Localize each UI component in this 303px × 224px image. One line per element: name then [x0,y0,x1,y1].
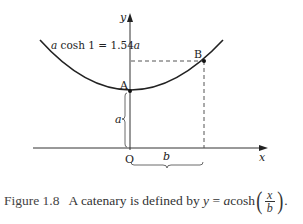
caption-text: A catenary is defined by [69,193,200,209]
point-b-marker [202,59,206,63]
caption-period: . [284,193,287,209]
equation-function: cosh [230,193,255,209]
fraction-denominator: b [267,202,273,214]
height-annotation: a cosh 1 = 1.54a [51,39,140,51]
figure-number: Figure 1.8 [4,193,60,209]
y-axis-arrow-icon [127,13,133,22]
point-a-label: A [119,79,129,92]
point-a-marker [128,89,132,93]
vertical-brace-label: a [115,113,122,126]
equation-fraction: xb [265,189,275,214]
equation-equals: = [209,193,223,209]
origin-label: O [125,153,134,166]
x-axis-label: x [259,151,266,164]
horizontal-brace-label: b [163,150,170,163]
point-b-label: B [194,48,202,61]
y-axis-label: y [119,11,127,24]
fraction-numerator: x [267,189,272,201]
figure-caption: Figure 1.8 A catenary is defined by y = … [4,188,303,214]
left-paren-icon: ( [256,188,262,214]
equation-coefficient: a [223,193,230,209]
right-paren-icon: ) [277,188,283,214]
vertical-brace [122,93,127,147]
catenary-figure: y x O A B a b a cosh 1 = 1.54a Figure 1.… [0,0,303,224]
